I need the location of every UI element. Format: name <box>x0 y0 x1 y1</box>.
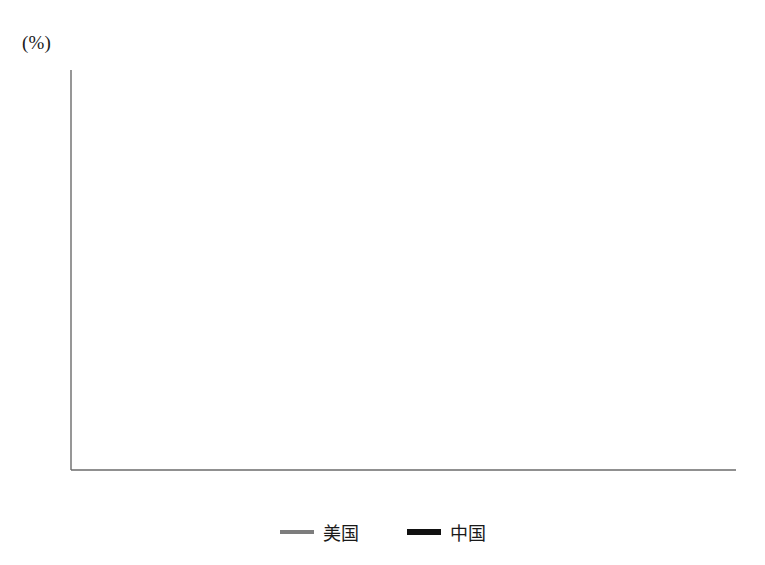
legend-label-cn: 中国 <box>450 519 486 545</box>
legend-item-cn[interactable]: 中国 <box>407 519 486 545</box>
chart-legend: 美国 中国 <box>0 519 765 545</box>
line-swatch-icon <box>280 530 314 534</box>
axis-lines <box>71 70 736 470</box>
legend-label-us: 美国 <box>323 519 359 545</box>
plot-area <box>0 0 765 565</box>
legend-item-us[interactable]: 美国 <box>280 519 359 545</box>
line-chart: (%) 美国 中国 <box>0 0 765 565</box>
line-swatch-icon <box>407 529 441 535</box>
